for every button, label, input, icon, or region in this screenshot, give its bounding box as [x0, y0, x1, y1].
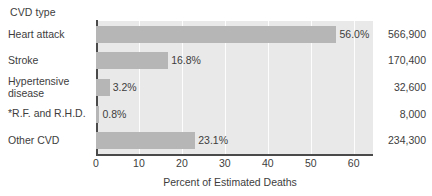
- bar: [96, 79, 110, 96]
- x-tick-label: 40: [262, 157, 274, 169]
- bar: [96, 106, 99, 123]
- x-axis-title-text: Percent of Estimated Deaths: [135, 176, 297, 188]
- category-label-line: Hypertensive: [8, 75, 94, 88]
- value-label: 0.8%: [102, 108, 126, 120]
- count-label: 8,000: [400, 108, 426, 120]
- category-label-line: *R.F. and R.H.D.: [8, 107, 94, 120]
- category-label: Other CVD: [8, 134, 94, 147]
- x-tick-label: 10: [133, 157, 145, 169]
- category-label-line: Other CVD: [8, 134, 94, 147]
- x-axis-title: Percent of Estimated Deaths: [0, 176, 432, 188]
- count-label: 32,600: [394, 81, 426, 93]
- bar: [96, 26, 336, 43]
- count-label: 566,900: [388, 28, 426, 40]
- cvd-type-bar-chart: CVD type Heart attackStrokeHypertensived…: [0, 0, 432, 196]
- value-label: 23.1%: [198, 134, 228, 146]
- x-tick-label: 50: [305, 157, 317, 169]
- category-label: *R.F. and R.H.D.: [8, 107, 94, 120]
- category-label: Hypertensivedisease: [8, 75, 94, 100]
- count-label: 234,300: [388, 134, 426, 146]
- chart-group-title: CVD type: [10, 6, 56, 18]
- category-label: Heart attack: [8, 28, 94, 41]
- value-label: 56.0%: [339, 28, 369, 40]
- count-label: 170,400: [388, 54, 426, 66]
- bar: [96, 132, 195, 149]
- x-tick-label: 0: [93, 157, 99, 169]
- value-label: 16.8%: [171, 54, 201, 66]
- category-label-line: Stroke: [8, 54, 94, 67]
- category-label-line: disease: [8, 87, 94, 100]
- gridline-60: [354, 21, 355, 154]
- x-axis-line: [96, 154, 373, 156]
- x-tick-label: 60: [348, 157, 360, 169]
- category-label: Stroke: [8, 54, 94, 67]
- x-tick-label: 20: [176, 157, 188, 169]
- value-label: 3.2%: [113, 81, 137, 93]
- bar: [96, 52, 168, 69]
- category-label-line: Heart attack: [8, 28, 94, 41]
- x-tick-label: 30: [219, 157, 231, 169]
